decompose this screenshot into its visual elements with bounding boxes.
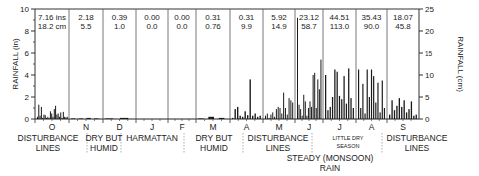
rain-bar (40, 116, 41, 119)
rain-bar (252, 116, 253, 119)
rain-bar (382, 81, 383, 120)
rain-bar (50, 111, 51, 119)
rain-bar (65, 117, 66, 119)
season-label-line1: DISTURBANCE (387, 133, 448, 143)
rain-bar (42, 118, 43, 119)
monthly-total-in: 7.16 ins (38, 13, 66, 22)
rain-bar (250, 79, 251, 119)
rain-bar (367, 70, 368, 120)
rain-bar (327, 110, 328, 119)
rain-bar (334, 70, 335, 120)
rain-bar (290, 100, 291, 119)
rain-bar (346, 104, 347, 119)
rain-bar (384, 108, 385, 119)
monthly-total-in: 0.31 (239, 13, 255, 22)
month-label: O (49, 122, 56, 132)
rain-bar (337, 72, 338, 119)
left-tick-label: 0 (25, 115, 30, 124)
season-label-line1: HARMATTAN (126, 133, 178, 143)
rain-bar (313, 75, 314, 119)
rain-bar (247, 115, 248, 119)
rain-bar (219, 118, 225, 119)
rain-bar (362, 84, 363, 119)
rain-bar (285, 108, 286, 119)
season-labels: DISTURBANCELINESDRY BUTHUMIDHARMATTANDRY… (18, 133, 448, 173)
rain-bar (257, 117, 258, 119)
monsoon-label-line1: STEADY (MONSOON) (287, 153, 374, 163)
season-label-line1: DISTURBANCE (18, 133, 79, 143)
month-label: D (116, 122, 122, 132)
rain-bar (299, 105, 300, 119)
rain-bar (38, 105, 39, 119)
season-label-line1: DISTURBANCE (248, 133, 309, 143)
monthly-total-cm: 14.9 (271, 22, 287, 31)
rain-bar (240, 116, 241, 119)
rain-bar (51, 114, 52, 120)
left-tick-label: 8 (25, 27, 30, 36)
rain-bar (375, 103, 376, 120)
monthly-total-in: 23.12 (299, 13, 320, 22)
rain-bar (310, 101, 311, 119)
rain-bar (413, 116, 414, 119)
monthly-total-in: 0.00 (174, 13, 190, 22)
rain-bar (255, 114, 256, 120)
rain-bar (306, 116, 307, 119)
monthly-total-cm: 113.0 (330, 22, 350, 31)
rain-bar (120, 118, 128, 119)
right-axis-label: RAINFALL (cm) (456, 36, 465, 92)
rain-bar (242, 117, 243, 119)
rain-bar (325, 75, 326, 119)
season-label-line2: HUMID (200, 143, 228, 153)
right-tick-label: 15 (425, 50, 433, 57)
rain-bar (58, 114, 59, 120)
monthly-total-cm: 18.2 cm (38, 22, 67, 31)
season-label-line1: DRY BUT (195, 133, 232, 143)
monthly-total-in: 0.31 (205, 13, 221, 22)
season-label-line2: LINES (266, 143, 291, 153)
season-label-line2: LINES (36, 143, 61, 153)
rain-bar (63, 112, 64, 119)
right-tick-label: 10 (425, 71, 434, 80)
monthly-total-cm: 5.5 (80, 22, 92, 31)
rain-bar (292, 103, 293, 120)
rain-bar (297, 18, 298, 119)
month-label: J (307, 122, 311, 132)
rain-bar (45, 115, 46, 119)
rain-bar (260, 116, 261, 119)
rain-bar (360, 108, 361, 119)
rain-bar (339, 96, 340, 119)
rain-bar (278, 107, 279, 119)
rain-bar (289, 98, 290, 119)
right-tick-label: 5 (425, 93, 430, 102)
rain-bar (237, 107, 238, 119)
month-label: J (150, 122, 154, 132)
rain-bar (59, 117, 60, 119)
season-label-line2: SEASON (337, 143, 360, 149)
rain-bar (64, 117, 65, 119)
rain-bar (369, 97, 370, 119)
rain-bar (305, 101, 306, 119)
rain-bar (283, 93, 284, 119)
rain-bar (373, 76, 374, 119)
rain-bar (411, 101, 412, 119)
monthly-total-in: 0.00 (144, 13, 160, 22)
rain-bar (316, 108, 317, 119)
right-tick-label: 25 (425, 5, 434, 14)
rain-bar (56, 115, 57, 119)
rain-bar (49, 118, 50, 119)
month-label: A (369, 122, 375, 132)
rain-bar (330, 107, 331, 119)
rain-bar (341, 99, 342, 119)
rain-bar (37, 117, 38, 119)
rain-bar (53, 117, 54, 119)
rain-bar (350, 98, 351, 119)
rain-bar (406, 112, 407, 119)
monthly-total-cm: 45.8 (395, 22, 411, 31)
monthly-total-in: 0.39 (112, 13, 128, 22)
rain-bar (208, 117, 214, 119)
month-label: M (209, 122, 216, 132)
monthly-totals: 7.16 ins18.2 cm2.185.50.391.00.000.00.00… (38, 13, 414, 31)
left-tick-label: 6 (25, 49, 30, 58)
rain-bar (380, 112, 381, 119)
monthly-total-in: 5.92 (271, 13, 287, 22)
